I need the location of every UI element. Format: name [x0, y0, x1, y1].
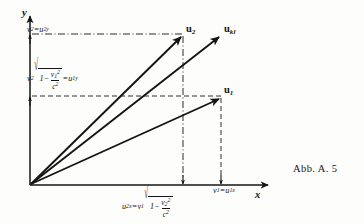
vector-label-ukl: ukl [224, 24, 236, 36]
annotation-x-right: v1=u1x [213, 187, 235, 195]
annotation-y-upper: v2=u2y [27, 26, 49, 34]
annotation-x-left-denominator: c2 [162, 208, 170, 217]
annotation-x-left: u2x=v1 √ 1− v22 c2 [122, 196, 173, 217]
annotation-x-left-radical: √ 1− v22 c2 [144, 196, 172, 217]
annotation-x-left-minus: − [154, 203, 160, 211]
annotation-y-lower: v2 √ 1− v12 c2 =u1y [27, 68, 78, 89]
annotation-x-left-radicand: 1− v22 c2 [148, 196, 172, 217]
vector-u2 [31, 37, 181, 184]
figure-caption: Abb. A. 5 [293, 164, 337, 175]
vector-label-u2: u2 [186, 24, 196, 36]
x-axis-label: x [255, 190, 260, 201]
radical-sign-icon: √ [34, 57, 38, 101]
annotation-x-left-den-sup: 2 [166, 209, 169, 215]
annotation-x-left-num-sup: 2 [167, 197, 170, 203]
vector-label-u2-sub: 2 [192, 28, 196, 36]
radical-sign-icon: √ [145, 185, 149, 224]
annotation-y-lower-radicand: 1− v12 c2 [38, 68, 62, 89]
annotation-x-right-rhs-sub: 1x [229, 188, 234, 194]
annotation-x-left-numerator: v22 [160, 198, 171, 208]
annotation-y-lower-num-sup: 2 [57, 69, 60, 75]
vector-label-ukl-sub: kl [230, 28, 236, 36]
y-axis-label: y [22, 8, 27, 19]
annotation-x-left-fraction: v22 c2 [160, 198, 171, 218]
annotation-y-lower-den-sup: 2 [56, 81, 59, 87]
figure-container: y x u2 ukl u1 v2=u2y v2 √ 1− v12 c2 =u1y… [0, 0, 364, 224]
vector-label-u1: u1 [224, 85, 234, 97]
annotation-y-lower-fraction: v12 c2 [50, 70, 61, 90]
annotation-y-lower-denominator: c2 [51, 80, 59, 89]
vector-u1 [31, 99, 219, 184]
annotation-y-lower-radical: √ 1− v12 c2 [34, 68, 62, 89]
vector-ukl [31, 37, 219, 184]
vector-label-u1-sub: 1 [230, 89, 234, 97]
annotation-y-lower-minus: − [44, 75, 50, 83]
annotation-y-upper-rhs-sub: 2y [43, 27, 48, 33]
vector-diagram [0, 0, 364, 224]
annotation-y-lower-numerator: v12 [50, 70, 61, 80]
annotation-y-lower-rhs-sub: 1y [72, 76, 77, 82]
